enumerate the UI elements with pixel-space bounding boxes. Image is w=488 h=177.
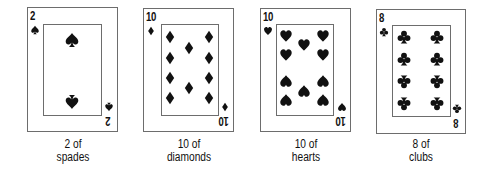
card-index-top-left: 10 [146,11,158,23]
card-rank: 2 [30,10,35,22]
card-caption: 10 ofhearts [267,138,344,164]
caption-line-2: hearts [267,151,344,164]
card-rank: 2 [103,115,113,127]
card-index-bottom-right: 10 [218,115,230,127]
caption-line-2: spades [34,151,111,164]
card-rank: 10 [336,115,346,127]
card-rank: 8 [451,117,461,129]
card-index-top-left: 10 [263,11,275,23]
card-index-top-left: 8 [379,12,385,24]
caption-line-2: clubs [383,151,460,164]
card-rank: 10 [146,11,156,23]
caption-line-2: diamonds [150,151,227,164]
card-caption: 8 ofclubs [383,138,460,164]
card-index-top-left: 2 [30,10,36,22]
card-rank: 10 [263,11,273,23]
card-caption: 2 ofspades [34,138,111,164]
card-caption: 10 ofdiamonds [150,138,227,164]
card-index-bottom-right: 8 [450,117,462,129]
card-rank: 10 [219,115,229,127]
card-rank: 8 [379,12,384,24]
card-index-bottom-right: 2 [102,115,114,127]
card-index-bottom-right: 10 [335,115,347,127]
